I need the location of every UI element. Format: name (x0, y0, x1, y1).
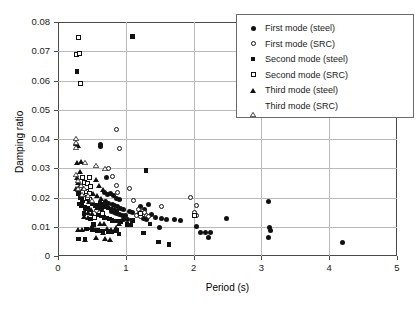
data-point (79, 183, 85, 188)
x-axis-title: Period (s) (58, 282, 397, 293)
data-point (73, 136, 79, 141)
legend-label: First mode (SRC) (265, 39, 335, 49)
legend-label: Third mode (steel) (265, 85, 338, 95)
data-point (75, 177, 81, 182)
legend-label: Third mode (SRC) (265, 101, 338, 111)
legend-item-3[interactable]: Second mode (SRC) (247, 70, 348, 80)
data-point (81, 177, 87, 182)
legend-marker-circle-filled-icon (247, 26, 259, 31)
data-point (93, 154, 99, 159)
data-point (73, 163, 79, 168)
data-point (102, 157, 108, 162)
legend-item-2[interactable]: Second mode (steel) (247, 54, 348, 64)
data-point (89, 189, 95, 194)
legend-label: Second mode (steel) (265, 54, 348, 64)
legend-item-4[interactable]: Third mode (steel) (247, 85, 338, 95)
legend-item-0[interactable]: First mode (steel) (247, 23, 335, 33)
scatter-chart-figure: 00.010.020.030.040.050.060.070.08 012345… (0, 0, 420, 313)
y-axis-title: Damping ratio (14, 111, 25, 173)
legend-marker-triangle-open-icon (247, 103, 259, 108)
legend-item-1[interactable]: First mode (SRC) (247, 39, 335, 49)
legend-marker-square-open-icon (247, 72, 259, 77)
legend-label: First mode (steel) (265, 23, 335, 33)
legend-marker-triangle-filled-icon (247, 88, 259, 93)
chart-legend: First mode (steel)First mode (SRC)Second… (236, 14, 414, 118)
legend-marker-circle-open-icon (247, 41, 259, 46)
data-point (82, 151, 88, 156)
legend-label: Second mode (SRC) (265, 70, 348, 80)
legend-marker-square-filled-icon (247, 57, 259, 62)
legend-item-5[interactable]: Third mode (SRC) (247, 101, 338, 111)
